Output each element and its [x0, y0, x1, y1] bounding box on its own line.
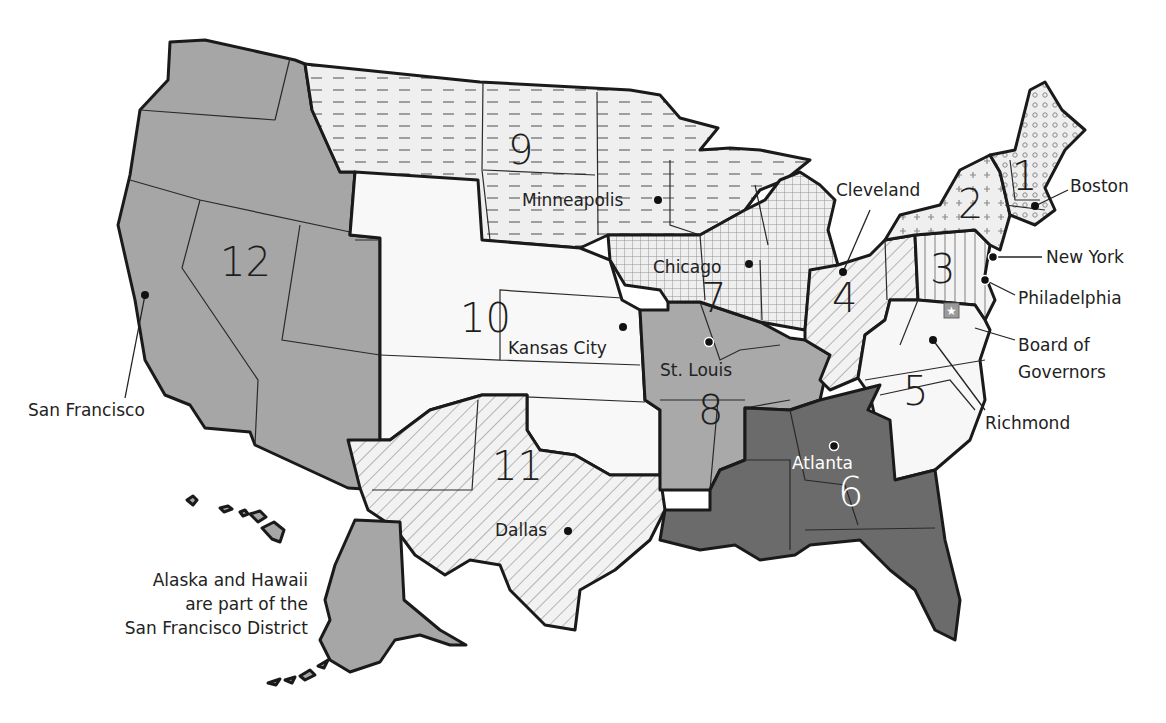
kansas-city-dot [619, 323, 627, 331]
label-board-line2: Governors [1018, 362, 1106, 382]
district-number-5: 5 [903, 368, 928, 414]
district-number-4: 4 [832, 275, 857, 321]
richmond-dot [929, 336, 937, 344]
district-number-11: 11 [492, 443, 543, 489]
district-number-2: 2 [958, 181, 983, 227]
label-san-francisco: San Francisco [28, 400, 145, 420]
note-line-3: San Francisco District [40, 616, 308, 640]
district-number-3: 3 [930, 246, 955, 292]
district-number-10: 10 [460, 295, 511, 341]
label-boston: Boston [1070, 176, 1129, 196]
alaska-hawaii-note: Alaska and Hawaii are part of the San Fr… [40, 568, 308, 640]
chicago-dot [745, 260, 753, 268]
new-york-dot [989, 253, 998, 262]
label-atlanta: Atlanta [792, 453, 853, 473]
label-st-louis: St. Louis [660, 360, 732, 380]
label-new-york: New York [1046, 247, 1124, 267]
label-minneapolis: Minneapolis [522, 190, 623, 210]
note-line-1: Alaska and Hawaii [40, 568, 308, 592]
label-philadelphia: Philadelphia [1018, 288, 1122, 308]
label-richmond: Richmond [985, 413, 1070, 433]
philadelphia-dot [981, 276, 990, 285]
st-louis-dot [705, 338, 714, 347]
atlanta-dot [830, 442, 839, 451]
label-chicago: Chicago [653, 257, 721, 277]
note-line-2: are part of the [40, 592, 308, 616]
hawaii [187, 496, 284, 542]
label-cleveland: Cleveland [836, 180, 920, 200]
district-number-9: 9 [508, 127, 533, 173]
label-kansas-city: Kansas City [508, 338, 607, 358]
san-francisco-dot [141, 291, 149, 299]
dallas-dot [564, 527, 572, 535]
label-board-line1: Board of [1018, 335, 1091, 355]
district-number-6: 6 [838, 469, 863, 515]
minneapolis-dot [654, 196, 662, 204]
board-of-governors-marker[interactable]: ★ [944, 303, 959, 318]
district-number-1: 1 [1012, 153, 1037, 199]
star-icon: ★ [946, 304, 957, 318]
district-number-8: 8 [698, 387, 723, 433]
district-number-7: 7 [701, 275, 726, 321]
district-number-12: 12 [220, 239, 271, 285]
label-dallas: Dallas [495, 520, 547, 540]
boston-dot [1031, 202, 1039, 210]
